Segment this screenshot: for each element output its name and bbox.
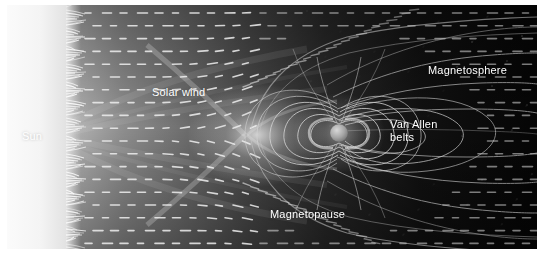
- magnetosphere-figure: Sun Solar wind Magnetosphere Van Allen b…: [0, 0, 544, 264]
- earth: [330, 124, 348, 142]
- illustration-canvas: Sun Solar wind Magnetosphere Van Allen b…: [7, 5, 537, 249]
- label-van-allen-belts: Van Allen belts: [390, 118, 437, 143]
- label-magnetosphere: Magnetosphere: [428, 64, 507, 77]
- label-sun: Sun: [22, 130, 42, 143]
- label-solar-wind: Solar wind: [152, 86, 205, 99]
- sun-body: [7, 5, 86, 249]
- label-magnetopause: Magnetopause: [270, 208, 345, 221]
